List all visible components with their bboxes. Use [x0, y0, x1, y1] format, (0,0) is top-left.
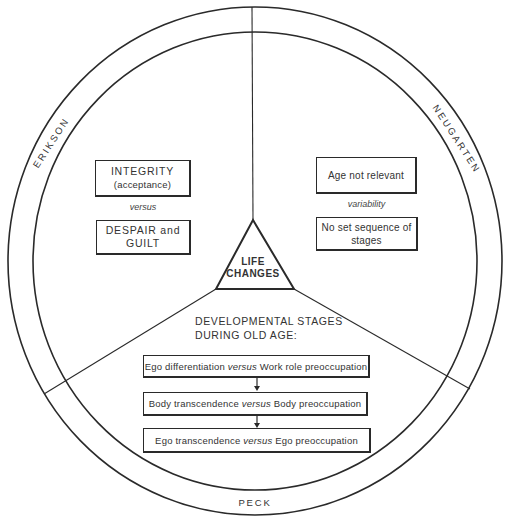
neugarten-variability: variability [316, 199, 417, 209]
age-not-relevant-box: Age not relevant [316, 157, 417, 194]
stage-box-1: Ego differentiation versus Work role pre… [143, 355, 370, 378]
stage-box-2: Body transcendence versus Body preoccupa… [143, 392, 368, 416]
life-changes-line2: CHANGES [222, 268, 284, 280]
erikson-versus: versus [95, 202, 191, 212]
stage-1-versus: versus [228, 361, 257, 372]
acceptance-text: (acceptance) [114, 178, 171, 191]
no-set-sequence-text: No set sequence of [322, 221, 412, 234]
heading-line2: DURING OLD AGE: [195, 328, 355, 342]
despair-box: DESPAIR and GUILT [96, 220, 191, 255]
stages-text: stages [351, 234, 382, 247]
despair-text: DESPAIR and [106, 224, 181, 237]
stage-2-left: Body transcendence [149, 398, 239, 409]
stage-1-right: Work role preoccupation [260, 361, 367, 372]
divider-top [252, 7, 253, 220]
heading-line1: DEVELOPMENTAL STAGES [195, 314, 355, 328]
age-not-relevant-text: Age not relevant [328, 169, 404, 182]
developmental-stages-heading: DEVELOPMENTAL STAGES DURING OLD AGE: [195, 314, 355, 342]
integrity-box: INTEGRITY (acceptance) [95, 160, 191, 197]
stage-3-left: Ego transcendence [155, 435, 240, 446]
life-changes-label: LIFE CHANGES [222, 256, 284, 280]
integrity-text: INTEGRITY [111, 165, 174, 178]
stage-2-versus: versus [242, 398, 271, 409]
no-set-sequence-box: No set sequence of stages [316, 217, 418, 251]
stage-box-3: Ego transcendence versus Ego preoccupati… [143, 428, 371, 453]
stage-2-text: Body transcendence versus Body preoccupa… [149, 397, 362, 410]
stage-3-text: Ego transcendence versus Ego preoccupati… [155, 434, 358, 447]
arrow-head-1 [254, 386, 260, 391]
guilt-text: GUILT [126, 237, 160, 250]
stage-3-right: Ego preoccupation [275, 435, 358, 446]
stage-3-versus: versus [243, 435, 272, 446]
divider-left [44, 289, 216, 394]
peck-label: PECK [230, 497, 280, 508]
life-changes-line1: LIFE [222, 256, 284, 268]
stage-1-left: Ego differentiation [145, 361, 225, 372]
stage-1-text: Ego differentiation versus Work role pre… [145, 360, 368, 373]
stage-2-right: Body preoccupation [274, 398, 362, 409]
